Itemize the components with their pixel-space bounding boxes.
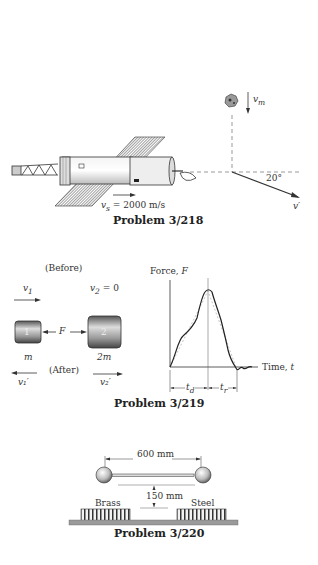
brass-label: Brass	[95, 498, 121, 508]
height-dimension-label: 150 mm	[146, 491, 183, 501]
caption-problem-3-220: Problem 3/220	[114, 527, 204, 540]
steel-label: Steel	[191, 498, 214, 508]
length-dimension-label: 600 mm	[137, 449, 174, 459]
dumbbell-diagram	[0, 0, 318, 565]
